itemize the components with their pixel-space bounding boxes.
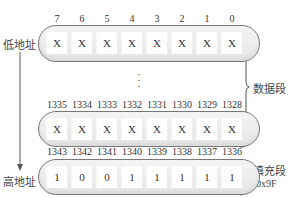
bit-index: 6: [69, 13, 95, 24]
bit-cell: X: [72, 32, 93, 54]
bit-cell: 1: [122, 166, 143, 188]
bit-cell: X: [222, 118, 243, 140]
bit-index: 1342: [69, 146, 95, 157]
down-arrow-icon: [17, 52, 23, 171]
bit-cell: X: [222, 32, 243, 54]
bit-cell: 1: [172, 166, 193, 188]
bit-index: 1: [194, 13, 220, 24]
row-1-indices: 1335 1334 1333 1332 1331 1330 1329 1328: [40, 99, 260, 111]
bit-cell: X: [72, 118, 93, 140]
bit-index: 1332: [119, 99, 145, 110]
row-0-indices: 7 6 5 4 3 2 1 0: [40, 13, 260, 25]
bit-index: 1329: [194, 99, 220, 110]
bit-cell: 0: [97, 166, 118, 188]
bit-cell: X: [147, 118, 168, 140]
bit-index: 1333: [94, 99, 120, 110]
bit-cell: X: [172, 32, 193, 54]
bit-index: 1343: [44, 146, 70, 157]
bit-cell: 0: [72, 166, 93, 188]
bit-index: 0: [219, 13, 245, 24]
bit-index: 1341: [94, 146, 120, 157]
bit-index: 1338: [169, 146, 195, 157]
bit-cell: X: [97, 32, 118, 54]
bit-cell: 1: [197, 166, 218, 188]
byte-row-1: X X X X X X X X: [38, 111, 260, 147]
bit-cell: 1: [47, 166, 68, 188]
bit-cell: X: [122, 118, 143, 140]
vertical-ellipsis: ···: [134, 72, 144, 90]
bit-index: 1330: [169, 99, 195, 110]
bit-cell: 1: [147, 166, 168, 188]
bit-index: 2: [169, 13, 195, 24]
byte-row-padding: 1 0 0 1 1 1 1 1: [38, 159, 260, 195]
bit-index: 7: [44, 13, 70, 24]
bit-cell: X: [197, 118, 218, 140]
bit-cell: 1: [222, 166, 243, 188]
bit-cell: X: [47, 118, 68, 140]
row-2-indices: 1343 1342 1341 1340 1339 1338 1337 1336: [40, 146, 260, 158]
bit-cell: X: [172, 118, 193, 140]
bit-index: 1339: [144, 146, 170, 157]
bit-cell: X: [122, 32, 143, 54]
bit-index: 1334: [69, 99, 95, 110]
bit-index: 1331: [144, 99, 170, 110]
byte-row-0: X X X X X X X X: [38, 25, 260, 62]
bit-index: 5: [94, 13, 120, 24]
bit-cell: X: [47, 32, 68, 54]
bit-index: 3: [144, 13, 170, 24]
bit-index: 1328: [219, 99, 245, 110]
data-segment-label: 数据段: [253, 80, 286, 96]
bit-index: 1335: [44, 99, 70, 110]
bit-index: 1337: [194, 146, 220, 157]
high-address-label: 高地址: [3, 173, 36, 189]
bit-cell: X: [97, 118, 118, 140]
bit-index: 1336: [219, 146, 245, 157]
bit-cell: X: [197, 32, 218, 54]
bit-index: 1340: [119, 146, 145, 157]
low-address-label: 低地址: [3, 36, 36, 52]
bit-cell: X: [147, 32, 168, 54]
bit-index: 4: [119, 13, 145, 24]
